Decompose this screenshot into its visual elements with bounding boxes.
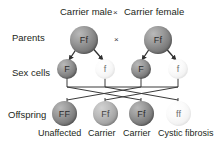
sex-cell-circle-4: f [168,59,188,79]
offspring-genotype-1: FF [59,109,70,119]
sex-cell-allele-2: f [104,64,107,74]
inheritance-diagram: Carrier male × Carrier female Parents Se… [0,0,220,142]
line-cross-d [105,87,178,100]
offspring-genotype-2: Ff [101,109,109,119]
title-carrier-female: Carrier female [124,7,184,17]
offspring-circle-2: Ff [93,101,118,126]
phenotype-label-2: Carrier [88,129,116,138]
parent-genotype-female: Ff [154,35,162,45]
phenotype-label-1: Unaffected [38,129,81,138]
parent-genotype-male: Ff [80,35,88,45]
row-label-parents: Parents [12,33,45,43]
sex-cell-allele-4: f [177,64,180,74]
offspring-circle-1: FF [52,101,77,126]
offspring-circle-3: Ff [129,101,154,126]
row-label-offspring: Offspring [8,110,46,120]
line-cross-a [67,87,141,100]
title-carrier-male: Carrier male [60,7,112,17]
parents-cross-symbol: × [114,36,119,44]
sex-cell-circle-2: f [95,59,115,79]
phenotype-label-4: Cystic fibrosis [158,129,214,138]
offspring-circle-4: ff [166,101,191,126]
phenotype-label-3: Carrier [123,129,151,138]
line-cross-b [67,87,141,100]
offspring-genotype-3: Ff [137,109,145,119]
sex-cell-allele-1: F [64,64,70,74]
title-cross-symbol: × [113,9,118,17]
sex-cell-circle-1: F [57,59,77,79]
line-cross-c [105,87,178,100]
sex-cell-allele-3: F [138,64,144,74]
row-label-sex-cells: Sex cells [12,68,50,78]
parent-circle-female: Ff [144,26,172,54]
offspring-genotype-4: ff [176,109,181,119]
parent-circle-male: Ff [70,26,98,54]
sex-cell-circle-3: F [131,59,151,79]
